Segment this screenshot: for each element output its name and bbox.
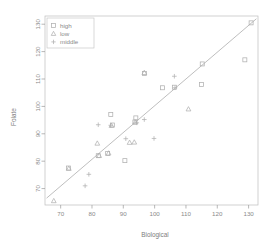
x-axis-ticks: 708090100110120130 — [57, 205, 254, 217]
x-tick-label: 80 — [89, 210, 96, 217]
data-point — [186, 107, 191, 111]
y-axis-title: Folate — [10, 108, 17, 126]
data-point — [132, 140, 137, 144]
y-tick-label: 80 — [34, 157, 41, 164]
x-tick-label: 130 — [243, 210, 254, 217]
series-high — [66, 21, 253, 170]
data-point — [152, 136, 157, 141]
data-point — [200, 82, 204, 86]
x-tick-label: 70 — [57, 210, 64, 217]
x-tick-label: 100 — [149, 210, 160, 217]
plot-legend: highlowmiddle — [47, 18, 94, 48]
x-tick-label: 90 — [120, 210, 127, 217]
data-point — [95, 141, 100, 145]
series-low — [51, 70, 190, 202]
series-middle — [83, 74, 177, 188]
data-point — [127, 140, 132, 144]
data-point — [124, 136, 129, 141]
y-tick-label: 90 — [34, 130, 41, 137]
legend-label: high — [60, 22, 72, 29]
y-tick-label: 70 — [34, 185, 41, 192]
data-point — [142, 117, 147, 122]
legend-label: low — [60, 30, 70, 37]
data-point — [172, 74, 177, 79]
data-point — [134, 116, 138, 120]
data-point — [123, 159, 127, 163]
x-axis-title: Biological — [141, 231, 168, 239]
y-tick-label: 110 — [34, 74, 41, 84]
scatter-plot-figure: 708090100110120130 708090100110120130 Bi… — [0, 0, 271, 251]
y-tick-label: 120 — [34, 46, 41, 57]
data-point — [109, 113, 113, 117]
legend-label: middle — [60, 38, 79, 45]
y-axis-ticks: 708090100110120130 — [34, 18, 45, 192]
data-point — [96, 122, 101, 127]
x-tick-label: 120 — [212, 210, 223, 217]
data-point — [51, 198, 56, 202]
y-tick-label: 130 — [34, 18, 41, 29]
y-tick-label: 100 — [34, 101, 41, 112]
plot-canvas: 708090100110120130 708090100110120130 Bi… — [0, 0, 271, 251]
data-point — [83, 184, 88, 189]
data-point — [87, 172, 92, 177]
data-point — [160, 86, 164, 90]
data-point — [243, 58, 247, 62]
x-tick-label: 110 — [181, 210, 191, 217]
